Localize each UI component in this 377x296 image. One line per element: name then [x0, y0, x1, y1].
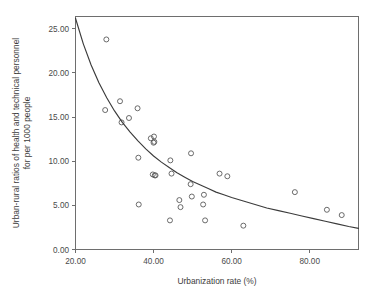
x-axis-ticks: 20.0040.0060.0080.00 — [65, 250, 320, 266]
data-point-marker — [104, 37, 109, 42]
data-point-marker — [103, 108, 108, 113]
data-point-marker — [167, 218, 172, 223]
data-point-marker — [189, 194, 194, 199]
data-point-marker — [168, 158, 173, 163]
plot-frame-border — [76, 17, 359, 250]
x-tick-label: 40.00 — [143, 257, 164, 266]
chart-svg: 0.005.0010.0015.0020.0025.00 20.0040.006… — [0, 0, 377, 296]
data-point-marker — [201, 202, 206, 207]
plot-frame — [76, 17, 359, 250]
data-point-marker — [188, 182, 193, 187]
y-axis-title-line1: Urban-rural ratios of health and technic… — [11, 38, 21, 229]
y-axis-ticks: 0.005.0010.0015.0020.0025.00 — [49, 25, 76, 255]
data-point-marker — [292, 190, 297, 195]
x-tick-label: 20.00 — [65, 257, 86, 266]
data-point-marker — [118, 99, 123, 104]
data-point-marker — [126, 116, 131, 121]
data-point-marker — [189, 151, 194, 156]
x-axis-title: Urbanization rate (%) — [177, 276, 256, 286]
data-point-group — [103, 37, 345, 228]
y-tick-label: 0.00 — [53, 246, 69, 255]
data-point-marker — [135, 106, 140, 111]
scatter-chart-figure: 0.005.0010.0015.0020.0025.00 20.0040.006… — [0, 0, 377, 296]
data-point-marker — [241, 223, 246, 228]
y-tick-label: 20.00 — [49, 69, 70, 78]
data-point-marker — [217, 171, 222, 176]
data-point-marker — [169, 171, 174, 176]
data-point-marker — [203, 218, 208, 223]
y-tick-label: 10.00 — [49, 157, 70, 166]
y-axis-title: Urban-rural ratios of health and technic… — [11, 38, 32, 229]
data-point-marker — [339, 213, 344, 218]
data-point-marker — [225, 174, 230, 179]
data-point-marker — [136, 155, 141, 160]
data-point-marker — [201, 192, 206, 197]
trend-line — [76, 18, 359, 228]
x-tick-label: 80.00 — [299, 257, 320, 266]
y-tick-label: 5.00 — [53, 201, 69, 210]
y-axis-title-line2: for per 1000 people — [22, 96, 32, 169]
data-point-marker — [177, 198, 182, 203]
data-point-marker — [324, 207, 329, 212]
y-tick-label: 15.00 — [49, 113, 70, 122]
data-point-marker — [178, 205, 183, 210]
data-point-marker — [136, 202, 141, 207]
y-tick-label: 25.00 — [49, 25, 70, 34]
x-tick-label: 60.00 — [221, 257, 242, 266]
